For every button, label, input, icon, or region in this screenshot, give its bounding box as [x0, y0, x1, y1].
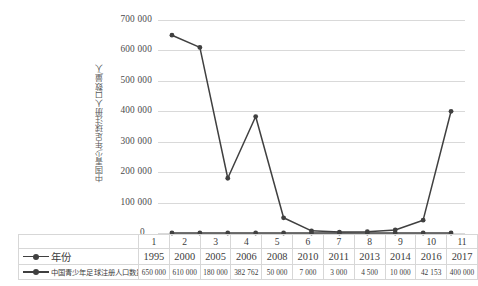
year-cell-4: 2006: [231, 249, 262, 265]
data-point-s1-8: [393, 228, 398, 233]
table-row-value: 中国青少年足球注册人口数量/人 650 000610 000180 000382…: [19, 265, 478, 280]
index-cell-10: 10: [416, 235, 447, 249]
data-point-s1-9: [421, 218, 426, 223]
y-tick-label-100000: 100 000: [96, 197, 152, 207]
index-cell-7: 7: [323, 235, 354, 249]
value-cell-5: 50 000: [262, 265, 293, 280]
value-cell-8: 4 500: [354, 265, 385, 280]
index-cell-11: 11: [447, 235, 478, 249]
value-cell-11: 400 000: [447, 265, 478, 280]
legend-marker-population-icon: [23, 268, 49, 276]
series-line-1: [172, 35, 451, 232]
y-tick-label-700000: 700 000: [96, 14, 152, 24]
legend-item-year[interactable]: 年份: [19, 249, 139, 265]
index-row-blank-cell: [19, 235, 139, 249]
value-cell-7: 3 000: [323, 265, 354, 280]
year-cell-3: 2005: [200, 249, 231, 265]
index-cell-9: 9: [385, 235, 416, 249]
y-tick-label-300000: 300 000: [96, 136, 152, 146]
y-tick-label-200000: 200 000: [96, 166, 152, 176]
index-cell-5: 5: [262, 235, 293, 249]
plot-area: 100 000200 000300 000400 000500 000600 0…: [158, 20, 465, 233]
year-cell-10: 2016: [416, 249, 447, 265]
data-point-s1-1: [197, 45, 202, 50]
value-cell-1: 650 000: [139, 265, 170, 280]
legend-item-population[interactable]: 中国青少年足球注册人口数量/人: [19, 265, 139, 280]
index-cell-1: 1: [139, 235, 170, 249]
y-tick-label-600000: 600 000: [96, 44, 152, 54]
index-cell-6: 6: [293, 235, 324, 249]
data-point-s1-10: [449, 109, 454, 114]
year-cell-6: 2010: [293, 249, 324, 265]
legend-marker-year-icon: [23, 253, 49, 261]
series-layer: [158, 20, 465, 233]
index-cell-8: 8: [354, 235, 385, 249]
legend-label-year: 年份: [51, 249, 71, 264]
y-tick-label-400000: 400 000: [96, 105, 152, 115]
data-point-s1-0: [170, 33, 175, 38]
data-point-s1-4: [281, 215, 286, 220]
table-row-year: 年份 1995200020052006200820102011201320142…: [19, 249, 478, 265]
year-cell-5: 2008: [262, 249, 293, 265]
legend-label-population: 中国青少年足球注册人口数量/人: [51, 267, 139, 277]
data-point-s1-3: [253, 114, 258, 119]
index-cell-3: 3: [200, 235, 231, 249]
value-cell-6: 7 000: [293, 265, 324, 280]
y-axis-title: 中国青少年足球注册人口数量/人: [96, 28, 114, 218]
value-cell-4: 382 762: [231, 265, 262, 280]
year-cell-8: 2013: [354, 249, 385, 265]
value-cell-9: 10 000: [385, 265, 416, 280]
table-row-index: 1234567891011: [19, 235, 478, 249]
index-cell-2: 2: [169, 235, 200, 249]
data-point-s1-5: [309, 228, 314, 233]
year-cell-11: 2017: [447, 249, 478, 265]
y-tick-label-500000: 500 000: [96, 75, 152, 85]
value-cell-10: 42 153: [416, 265, 447, 280]
year-cell-1: 1995: [139, 249, 170, 265]
index-cell-4: 4: [231, 235, 262, 249]
data-point-s1-2: [225, 176, 230, 181]
data-table: 1234567891011 年份 19952000200520062008201…: [18, 234, 478, 280]
year-cell-2: 2000: [169, 249, 200, 265]
year-cell-9: 2014: [385, 249, 416, 265]
year-cell-7: 2011: [323, 249, 354, 265]
value-cell-3: 180 000: [200, 265, 231, 280]
value-cell-2: 610 000: [169, 265, 200, 280]
